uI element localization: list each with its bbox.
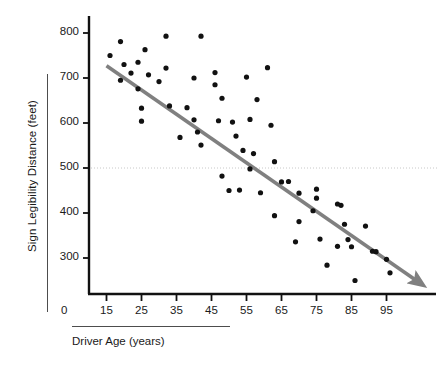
data-point [167, 103, 172, 108]
data-point [184, 105, 189, 110]
data-point-group [107, 34, 392, 284]
trend-line [107, 66, 415, 279]
data-point [128, 70, 133, 75]
data-point [317, 237, 322, 242]
x-tick-label-45: 45 [196, 304, 228, 316]
data-point [139, 119, 144, 124]
data-point [363, 223, 368, 228]
data-point [135, 86, 140, 91]
data-point [314, 196, 319, 201]
data-point [349, 244, 354, 249]
data-point [279, 179, 284, 184]
x-tick-label-55: 55 [231, 304, 263, 316]
data-point [163, 34, 168, 39]
x-tick-label-35: 35 [161, 304, 193, 316]
data-point [345, 237, 350, 242]
data-point [272, 159, 277, 164]
data-point [247, 166, 252, 171]
data-point [191, 75, 196, 80]
data-point [121, 62, 126, 67]
data-point [177, 135, 182, 140]
data-point [247, 117, 252, 122]
x-tick-label-15: 15 [91, 304, 123, 316]
data-point [324, 263, 329, 268]
data-point [387, 270, 392, 275]
data-point [293, 239, 298, 244]
x-tick-label-75: 75 [301, 304, 333, 316]
data-point [212, 82, 217, 87]
data-point [191, 117, 196, 122]
data-point [195, 129, 200, 134]
y-tick-label-700: 700 [43, 70, 79, 82]
data-point [230, 120, 235, 125]
data-point [198, 34, 203, 39]
data-point [237, 187, 242, 192]
data-point [258, 190, 263, 195]
data-point [296, 219, 301, 224]
data-point [163, 66, 168, 71]
x-tick-label-25: 25 [126, 304, 158, 316]
data-point [335, 244, 340, 249]
y-tick-label-300: 300 [43, 250, 79, 262]
scatter-chart-figure: Sign Legibility Distance (feet) Driver A… [0, 0, 439, 366]
data-point [254, 97, 259, 102]
data-point [198, 142, 203, 147]
y-tick-label-500: 500 [43, 160, 79, 172]
x-tick-label-65: 65 [266, 304, 298, 316]
data-point [314, 187, 319, 192]
data-point [135, 60, 140, 65]
data-point [118, 78, 123, 83]
data-point [240, 148, 245, 153]
y-tick-label-600: 600 [43, 115, 79, 127]
data-point [216, 118, 221, 123]
data-point [384, 257, 389, 262]
origin-zero-label: 0 [61, 304, 67, 316]
data-point [219, 174, 224, 179]
data-point [212, 70, 217, 75]
data-point [272, 213, 277, 218]
data-point [226, 188, 231, 193]
data-point [342, 222, 347, 227]
data-point [296, 191, 301, 196]
data-point [373, 249, 378, 254]
data-point [142, 47, 147, 52]
data-point [286, 179, 291, 184]
x-tick-label-85: 85 [336, 304, 368, 316]
data-point [251, 151, 256, 156]
y-tick-label-800: 800 [43, 25, 79, 37]
data-point [268, 123, 273, 128]
x-tick-label-95: 95 [371, 304, 403, 316]
data-point [310, 208, 315, 213]
x-axis-label-rule [72, 326, 230, 327]
data-point [107, 53, 112, 58]
data-point [146, 72, 151, 77]
data-point [156, 79, 161, 84]
data-point [219, 96, 224, 101]
data-point [244, 75, 249, 80]
data-point [338, 203, 343, 208]
data-point [118, 39, 123, 44]
data-point [139, 106, 144, 111]
data-point [265, 65, 270, 70]
x-axis-label-group: Driver Age (years) [62, 326, 282, 360]
data-point [352, 278, 357, 283]
x-axis-label: Driver Age (years) [72, 335, 165, 347]
data-point [233, 133, 238, 138]
y-tick-label-400: 400 [43, 205, 79, 217]
